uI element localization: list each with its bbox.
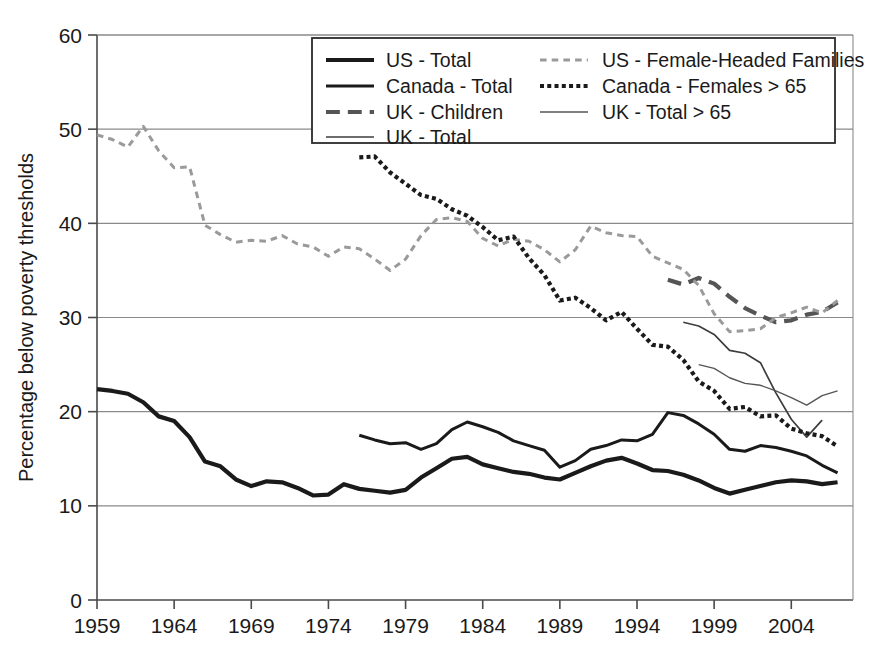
legend-item-label: US - Total: [386, 49, 471, 71]
legend-item-label: UK - Children: [386, 101, 503, 123]
y-axis-title: Percentage below poverty thresholds: [15, 153, 37, 482]
legend-item-label: US - Female-Headed Families: [602, 49, 865, 71]
y-tick-label: 60: [59, 24, 82, 47]
y-tick-label: 50: [59, 118, 82, 141]
y-tick-label: 20: [59, 400, 82, 423]
x-tick-label: 1969: [228, 614, 275, 637]
legend-item-label: Canada - Females > 65: [602, 75, 806, 97]
chart-canvas: 0102030405060 19591964196919741979198419…: [0, 0, 879, 656]
legend-item-label: UK - Total > 65: [602, 101, 731, 123]
x-tick-label: 1989: [536, 614, 583, 637]
legend-item-label: UK - Total: [386, 126, 471, 148]
x-tick-label: 1994: [614, 614, 661, 637]
x-tick-label: 1974: [305, 614, 352, 637]
x-tick-label: 2004: [768, 614, 815, 637]
x-tick-label: 1984: [459, 614, 506, 637]
y-axis-title-text: Percentage below poverty thresholds: [15, 153, 37, 482]
x-tick-label: 1999: [691, 614, 738, 637]
x-tick-label: 1964: [151, 614, 198, 637]
x-tick-label: 1979: [382, 614, 429, 637]
x-tick-label: 1959: [74, 614, 121, 637]
chart-legend: US - TotalCanada - TotalUK - ChildrenUK …: [312, 38, 865, 148]
y-tick-label: 30: [59, 306, 82, 329]
y-tick-label: 10: [59, 494, 82, 517]
poverty-thresholds-chart: 0102030405060 19591964196919741979198419…: [0, 0, 879, 656]
y-tick-label: 0: [70, 589, 82, 612]
legend-item-label: Canada - Total: [386, 75, 512, 97]
y-tick-label: 40: [59, 212, 82, 235]
